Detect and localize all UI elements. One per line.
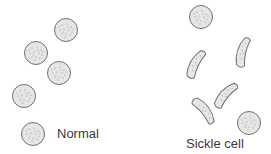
normal-cell [13,85,36,108]
sickle-cell [184,48,208,80]
sickle-cell [211,80,239,110]
round-cell [238,112,261,135]
normal-cell [25,42,48,65]
normal-cell [48,62,71,85]
sickle-cell-label: Sickle cell [186,136,244,151]
blood-cell-diagram [0,0,271,154]
sickle-panel [184,6,261,135]
normal-cell-legend [22,123,45,146]
normal-cell [55,19,78,42]
normal-label: Normal [57,126,99,141]
sickle-cell [233,36,251,68]
sickle-cell [191,95,218,125]
round-cell [190,6,213,29]
